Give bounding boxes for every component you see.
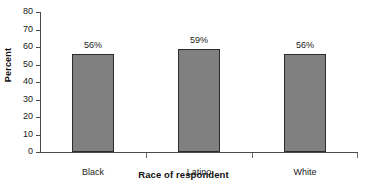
- x-axis-title: Race of respondent: [0, 169, 367, 180]
- x-axis-tick: [146, 153, 147, 158]
- y-axis-title: Percent: [3, 35, 13, 95]
- y-axis-tick-label: 50: [13, 59, 33, 70]
- plot-area: 0 10 20 30 40 50 60 70 80: [40, 12, 358, 152]
- x-axis-tick: [252, 153, 253, 158]
- bar-chart-figure: Percent 0 10 20 30 40 50 60 70 80: [0, 0, 367, 186]
- y-axis-tick-label: 70: [13, 24, 33, 35]
- y-axis-tick-label: 80: [13, 6, 33, 17]
- bar-group: 59%: [178, 12, 220, 152]
- bar-latino[interactable]: [178, 49, 220, 152]
- bar-white[interactable]: [284, 54, 326, 152]
- y-axis-tick-label: 30: [13, 94, 33, 105]
- y-axis-tick-label: 10: [13, 129, 33, 140]
- bar-group: 56%: [72, 12, 114, 152]
- x-axis-tick: [357, 153, 358, 158]
- y-axis-tick-label: 20: [13, 111, 33, 122]
- bar-value-label: 56%: [296, 40, 314, 51]
- bars-layer: 56% 59% 56%: [40, 12, 358, 152]
- y-axis-tick-label: 40: [13, 76, 33, 87]
- bar-group: 56%: [284, 12, 326, 152]
- bar-value-label: 59%: [190, 35, 208, 46]
- y-axis-tick: 0: [36, 152, 40, 153]
- y-axis-tick-label: 0: [13, 146, 33, 157]
- bar-value-label: 56%: [84, 40, 102, 51]
- bar-black[interactable]: [72, 54, 114, 152]
- y-axis-tick-label: 60: [13, 41, 33, 52]
- x-axis-line: [40, 152, 358, 153]
